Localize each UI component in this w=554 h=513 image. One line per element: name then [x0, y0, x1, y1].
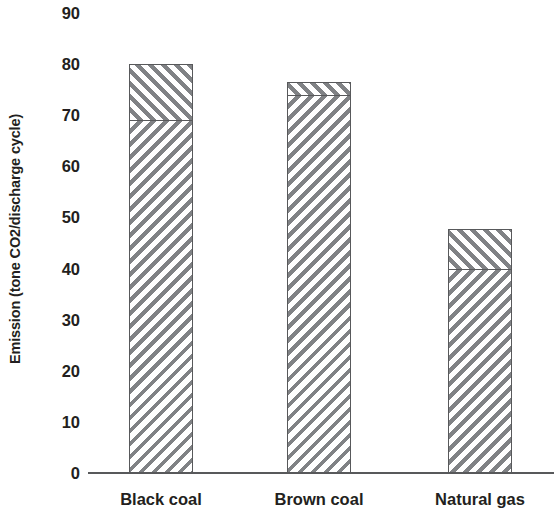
y-tick-label: 10	[34, 414, 80, 431]
bar[interactable]	[287, 82, 351, 473]
plot-area: Black coalBrown coalNatural gas	[88, 0, 554, 513]
y-tick-label: 70	[34, 107, 80, 124]
y-tick-label: 60	[34, 158, 80, 175]
bar-segment-lower[interactable]	[448, 269, 512, 473]
y-tick-label: 30	[34, 311, 80, 328]
y-axis-tick-labels: 0102030405060708090	[24, 0, 80, 513]
bar-chart: Emission (tone CO2/discharge cycle) 0102…	[0, 0, 554, 513]
y-tick-label: 40	[34, 260, 80, 277]
bar[interactable]	[448, 229, 512, 473]
bar-segment-upper[interactable]	[287, 82, 351, 95]
y-tick-label: 50	[34, 209, 80, 226]
bar[interactable]	[129, 64, 193, 473]
y-tick-label: 90	[34, 5, 80, 22]
x-tick-label: Brown coal	[247, 491, 391, 508]
x-tick-label: Black coal	[89, 491, 233, 508]
y-axis-title-label: Emission (tone CO2/discharge cycle)	[7, 114, 23, 364]
y-tick-label: 0	[34, 465, 80, 482]
y-tick-label: 20	[34, 363, 80, 380]
bar-segment-lower[interactable]	[129, 120, 193, 473]
bar-segment-upper[interactable]	[448, 229, 512, 268]
y-tick-label: 80	[34, 56, 80, 73]
bar-segment-lower[interactable]	[287, 95, 351, 473]
x-tick-label: Natural gas	[408, 491, 552, 508]
bar-segment-upper[interactable]	[129, 64, 193, 120]
